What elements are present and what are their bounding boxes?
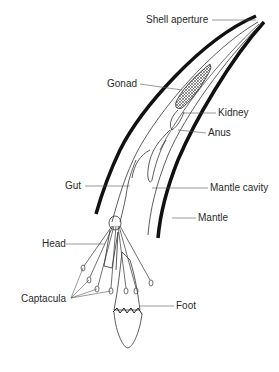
diagram-canvas: Shell aperture Gonad Kidney Anus Gut Man…: [0, 0, 279, 372]
label-anus: Anus: [208, 127, 231, 139]
foot-shape: [114, 252, 140, 310]
label-kidney: Kidney: [218, 107, 249, 119]
label-gut: Gut: [65, 180, 81, 192]
label-head: Head: [42, 238, 66, 250]
label-shell-aperture: Shell aperture: [146, 14, 208, 26]
label-captacula: Captacula: [21, 293, 66, 305]
label-mantle-cavity: Mantle cavity: [210, 182, 268, 194]
label-foot: Foot: [176, 300, 196, 312]
label-gonad: Gonad: [107, 78, 137, 90]
label-mantle: Mantle: [198, 212, 228, 224]
